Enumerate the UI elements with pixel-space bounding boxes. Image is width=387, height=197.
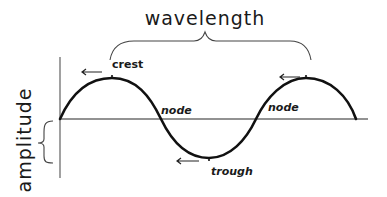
wavelength-label: wavelength [145,7,266,29]
trough-label: trough [211,165,253,178]
wavelength-brace [110,32,311,60]
node-label-2: node [268,101,299,114]
amplitude-brace [38,121,53,163]
node-label-1: node [161,104,192,117]
crest-label: crest [112,58,143,71]
wave-curve [60,78,356,158]
crest-arrow-icon [82,69,102,75]
amplitude-label: amplitude [13,87,35,192]
wave-diagram: wavelength amplitude crest node trough n… [0,0,387,197]
trough-arrow-icon [177,158,199,164]
